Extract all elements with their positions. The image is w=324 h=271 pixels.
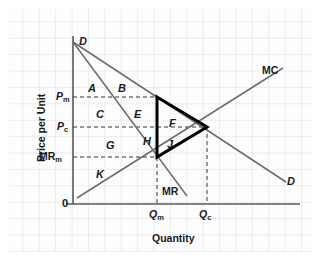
region-label-g: G bbox=[106, 140, 115, 151]
region-label-c: C bbox=[96, 109, 104, 120]
demand-label-top: D bbox=[79, 36, 87, 47]
y-tick-mrm-sub: m bbox=[55, 155, 62, 164]
region-label-h: H bbox=[143, 136, 151, 147]
marginal-cost-label: MC bbox=[262, 65, 278, 76]
region-label-f: F bbox=[169, 118, 176, 129]
region-label-e: E bbox=[134, 109, 141, 120]
y-tick-pm-text: P bbox=[56, 90, 63, 102]
x-tick-qc-text: Q bbox=[199, 208, 207, 220]
x-tick-qm-text: Q bbox=[149, 208, 157, 220]
region-label-j: J bbox=[167, 139, 173, 150]
x-tick-qc: Qc bbox=[199, 209, 211, 220]
origin-label: 0 bbox=[62, 198, 68, 209]
y-tick-pm-sub: m bbox=[63, 95, 70, 104]
y-tick-pc: Pc bbox=[57, 121, 68, 132]
x-tick-qc-sub: c bbox=[207, 213, 211, 222]
x-axis-title: Quantity bbox=[152, 233, 195, 244]
region-label-b: B bbox=[118, 83, 126, 94]
diagram-canvas bbox=[0, 0, 324, 271]
region-label-a: A bbox=[88, 83, 96, 94]
economics-diagram-figure: D D MC MR A B C E F G H J K Pm Pc MRm Qm… bbox=[0, 0, 324, 271]
x-tick-qm-sub: m bbox=[157, 213, 164, 222]
marginal-cost-curve bbox=[77, 68, 283, 198]
y-axis-title: Price per Unit bbox=[36, 94, 47, 162]
y-tick-pc-sub: c bbox=[64, 125, 68, 134]
y-tick-pm: Pm bbox=[56, 91, 70, 102]
x-tick-qm: Qm bbox=[149, 209, 164, 220]
region-label-k: K bbox=[96, 169, 104, 180]
marginal-revenue-label: MR bbox=[162, 186, 178, 197]
y-tick-pc-text: P bbox=[57, 120, 64, 132]
demand-label-bottom: D bbox=[287, 176, 295, 187]
